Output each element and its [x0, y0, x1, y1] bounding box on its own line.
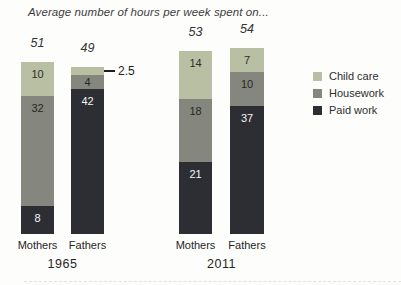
legend-label: Child care — [329, 71, 379, 82]
legend-swatch-housework — [313, 89, 322, 98]
year-label-1965: 1965 — [33, 257, 93, 270]
segment-housework-fathers-1965: 4 — [71, 75, 104, 89]
segment-value-label: 21 — [189, 169, 201, 180]
segment-value-label: 32 — [31, 103, 43, 114]
segment-paid-work-mothers-2011: 21 — [179, 162, 212, 234]
segment-value-label: 14 — [189, 58, 201, 69]
segment-child-care-mothers-2011: 14 — [179, 51, 212, 99]
segment-paid-work-mothers-1965: 8 — [21, 206, 54, 234]
segment-value-label: 10 — [241, 79, 253, 90]
segment-child-care-mothers-1965: 10 — [21, 62, 54, 97]
legend-item-child-care: Child care — [313, 71, 384, 82]
legend-swatch-child-care — [313, 72, 322, 81]
bar-axis-label-fathers-1965: Fathers — [55, 239, 120, 251]
segment-housework-mothers-2011: 18 — [179, 99, 212, 161]
segment-value-label: 4 — [84, 77, 90, 88]
legend-label: Housework — [329, 88, 384, 99]
segment-value-label: 7 — [244, 55, 250, 66]
segment-value-label: 10 — [31, 69, 43, 80]
callout-label: 2.5 — [118, 65, 135, 77]
year-label-2011: 2011 — [192, 257, 252, 270]
legend: Child care Housework Paid work — [313, 71, 384, 122]
segment-paid-work-fathers-2011: 37 — [230, 106, 264, 234]
segment-value-label: 42 — [81, 96, 93, 107]
segment-housework-mothers-1965: 32 — [21, 96, 54, 206]
bar-axis-label-fathers-2011: Fathers — [214, 239, 280, 251]
bar-total-mothers-1965: 51 — [9, 36, 66, 50]
legend-swatch-paid-work — [313, 106, 322, 115]
segment-child-care-fathers-1965 — [71, 67, 104, 76]
stacked-bar-plot: 5110328Mothers492.5442Fathers19655314182… — [0, 0, 401, 285]
bottom-divider — [24, 281, 401, 282]
legend-item-paid-work: Paid work — [313, 105, 384, 116]
legend-item-housework: Housework — [313, 88, 384, 99]
bar-total-fathers-1965: 49 — [59, 41, 116, 55]
segment-paid-work-fathers-1965: 42 — [71, 89, 104, 234]
legend-label: Paid work — [329, 105, 377, 116]
segment-child-care-fathers-2011: 7 — [230, 48, 264, 72]
chart-canvas: Average number of hours per week spent o… — [0, 0, 401, 285]
segment-value-label: 37 — [241, 113, 253, 124]
segment-value-label: 18 — [189, 106, 201, 117]
bar-total-fathers-2011: 54 — [218, 22, 276, 36]
bar-total-mothers-2011: 53 — [167, 25, 224, 39]
segment-housework-fathers-2011: 10 — [230, 72, 264, 107]
segment-value-label: 8 — [34, 213, 40, 224]
